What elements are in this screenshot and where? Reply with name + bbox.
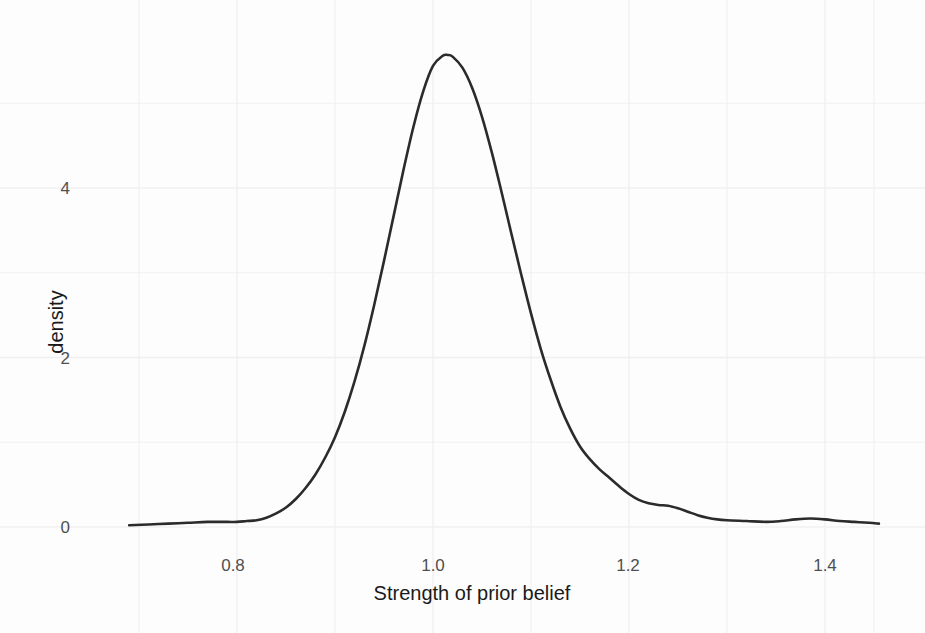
plot-canvas xyxy=(0,0,925,633)
x-axis-title: Strength of prior belief xyxy=(374,583,571,603)
y-tick-label-4: 4 xyxy=(52,180,70,197)
density-plot-figure: 0 2 4 0.8 1.0 1.2 1.4 Strength of prior … xyxy=(0,0,925,633)
density-curve xyxy=(129,55,879,526)
x-tick-label-1-0: 1.0 xyxy=(421,557,445,574)
minor-gridlines xyxy=(0,0,925,633)
y-tick-label-0: 0 xyxy=(52,519,70,536)
x-tick-label-0-8: 0.8 xyxy=(221,557,245,574)
x-tick-label-1-4: 1.4 xyxy=(813,557,837,574)
x-tick-label-1-2: 1.2 xyxy=(616,557,640,574)
y-axis-title: density xyxy=(46,290,66,353)
